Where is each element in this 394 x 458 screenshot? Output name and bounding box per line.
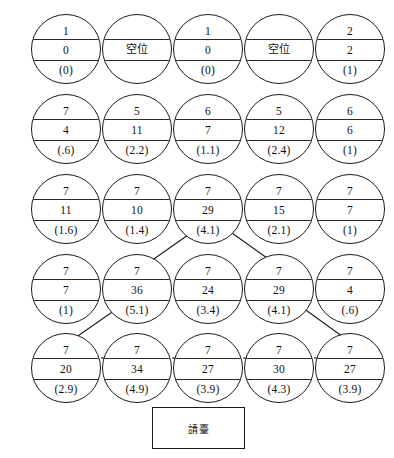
node-r5c3-bottom: (3.9): [174, 384, 242, 396]
node-r2c1-top: 7: [32, 106, 100, 118]
chord-upper: [245, 119, 313, 120]
node-r3c5-mid: 7: [316, 205, 384, 217]
node-r1c3[interactable]: 1 0 (0): [173, 14, 243, 84]
node-r5c2-top: 7: [103, 345, 171, 357]
node-r5c5[interactable]: 7 27 (3.9): [315, 333, 385, 403]
node-r2c3-mid: 7: [174, 125, 242, 137]
node-r5c1[interactable]: 7 20 (2.9): [31, 333, 101, 403]
node-r3c2[interactable]: 7 10 (1.4): [102, 174, 172, 244]
node-r1c4[interactable]: 空位: [244, 14, 314, 84]
node-r5c5-top: 7: [316, 345, 384, 357]
node-r1c5[interactable]: 2 2 (1): [315, 14, 385, 84]
node-r2c1[interactable]: 7 4 (.6): [31, 94, 101, 164]
node-r4c2[interactable]: 7 36 (5.1): [102, 254, 172, 324]
node-r4c4-bottom: (4.1): [245, 305, 313, 317]
node-r1c2[interactable]: 空位: [102, 14, 172, 84]
chord-upper: [245, 199, 313, 200]
node-r4c4[interactable]: 7 29 (4.1): [244, 254, 314, 324]
node-r4c1-bottom: (1): [32, 305, 100, 317]
node-r3c3-top: 7: [174, 186, 242, 198]
chord-lower: [245, 220, 313, 221]
node-r2c2-mid: 11: [103, 125, 171, 137]
node-r1c1-bottom: (0): [32, 65, 100, 77]
node-r4c5-bottom: (.6): [316, 305, 384, 317]
node-r1c5-bottom: (1): [316, 65, 384, 77]
chord-lower: [32, 300, 100, 301]
chord-upper: [316, 39, 384, 40]
chord-upper: [174, 39, 242, 40]
node-r1c5-top: 2: [316, 26, 384, 38]
chord-upper: [32, 358, 100, 359]
chord-lower: [174, 300, 242, 301]
chord-upper: [32, 39, 100, 40]
node-r5c3[interactable]: 7 27 (3.9): [173, 333, 243, 403]
chord-lower: [103, 379, 171, 380]
node-r5c5-mid: 27: [316, 364, 384, 376]
node-r2c4-top: 5: [245, 106, 313, 118]
node-r3c5[interactable]: 7 7 (1): [315, 174, 385, 244]
node-r2c4-bottom: (2.4): [245, 145, 313, 157]
chord-lower: [316, 379, 384, 380]
footer-box-label: 請臺: [188, 421, 210, 436]
node-r2c4[interactable]: 5 12 (2.4): [244, 94, 314, 164]
chord-upper: [245, 358, 313, 359]
node-r2c2[interactable]: 5 11 (2.2): [102, 94, 172, 164]
node-r5c2-bottom: (4.9): [103, 384, 171, 396]
chord-lower: [316, 300, 384, 301]
node-r1c5-mid: 2: [316, 45, 384, 57]
node-r3c3[interactable]: 7 29 (4.1): [173, 174, 243, 244]
footer-box[interactable]: 請臺: [152, 407, 245, 449]
node-r4c3[interactable]: 7 24 (3.4): [173, 254, 243, 324]
node-r4c5[interactable]: 7 4 (.6): [315, 254, 385, 324]
chord-lower: [32, 140, 100, 141]
node-r3c3-mid: 29: [174, 205, 242, 217]
node-r2c5-top: 6: [316, 106, 384, 118]
node-r2c5[interactable]: 6 6 (1): [315, 94, 385, 164]
node-r4c2-mid: 36: [103, 285, 171, 297]
node-r5c2[interactable]: 7 34 (4.9): [102, 333, 172, 403]
chord-lower: [103, 60, 171, 61]
chord-lower: [103, 300, 171, 301]
chord-lower: [174, 60, 242, 61]
node-r2c3-bottom: (1.1): [174, 145, 242, 157]
node-r4c3-mid: 24: [174, 285, 242, 297]
chord-lower: [245, 140, 313, 141]
node-r3c5-top: 7: [316, 186, 384, 198]
chord-lower: [32, 379, 100, 380]
chord-upper: [316, 358, 384, 359]
node-r5c4[interactable]: 7 30 (4.3): [244, 333, 314, 403]
chord-upper: [103, 358, 171, 359]
node-r4c5-mid: 4: [316, 285, 384, 297]
chord-upper: [103, 119, 171, 120]
node-r4c1[interactable]: 7 7 (1): [31, 254, 101, 324]
chord-lower: [174, 379, 242, 380]
node-r2c1-mid: 4: [32, 125, 100, 137]
chord-upper: [32, 119, 100, 120]
chord-upper: [174, 199, 242, 200]
node-r4c1-top: 7: [32, 266, 100, 278]
node-r1c1[interactable]: 1 0 (0): [31, 14, 101, 84]
chord-upper: [174, 358, 242, 359]
node-r4c2-bottom: (5.1): [103, 305, 171, 317]
node-r2c2-top: 5: [103, 106, 171, 118]
node-r5c1-mid: 20: [32, 364, 100, 376]
chord-upper: [245, 39, 313, 40]
node-r3c4-bottom: (2.1): [245, 225, 313, 237]
node-r1c1-top: 1: [32, 26, 100, 38]
chord-upper: [32, 279, 100, 280]
node-r3c5-bottom: (1): [316, 225, 384, 237]
chord-lower: [245, 300, 313, 301]
node-r1c3-top: 1: [174, 26, 242, 38]
node-r4c2-top: 7: [103, 266, 171, 278]
node-r2c3[interactable]: 6 7 (1.1): [173, 94, 243, 164]
node-r4c5-top: 7: [316, 266, 384, 278]
node-r3c4[interactable]: 7 15 (2.1): [244, 174, 314, 244]
node-r3c1[interactable]: 7 11 (1.6): [31, 174, 101, 244]
chord-upper: [32, 199, 100, 200]
node-r4c3-bottom: (3.4): [174, 305, 242, 317]
chord-lower: [316, 60, 384, 61]
node-r3c1-bottom: (1.6): [32, 225, 100, 237]
chord-lower: [103, 140, 171, 141]
node-r3c2-top: 7: [103, 186, 171, 198]
node-r5c4-mid: 30: [245, 364, 313, 376]
